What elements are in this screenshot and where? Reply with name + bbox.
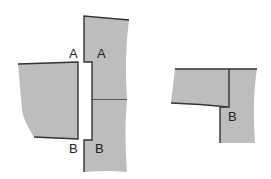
label-a-right: A bbox=[97, 46, 106, 61]
diagram-canvas: A A B B B bbox=[0, 0, 271, 179]
label-b-left: B bbox=[69, 141, 78, 156]
label-b-joined: B bbox=[228, 109, 237, 124]
left-block bbox=[18, 62, 78, 139]
label-b-right: B bbox=[95, 141, 104, 156]
label-a-left: A bbox=[69, 46, 78, 61]
strip-lower-piece bbox=[84, 100, 127, 172]
diagram-svg: A A B B B bbox=[0, 0, 271, 179]
strip-upper-piece bbox=[84, 16, 129, 100]
joined-top-piece bbox=[171, 69, 229, 106]
